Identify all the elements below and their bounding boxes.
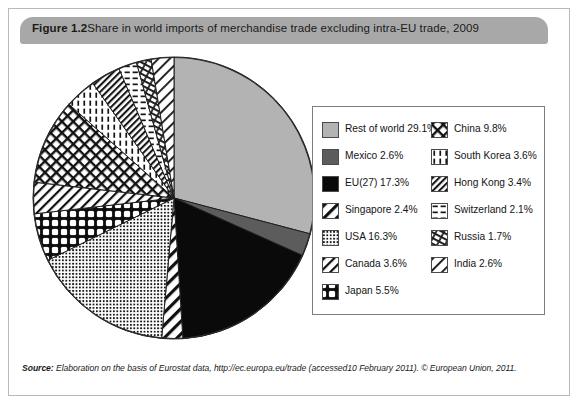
legend-item-label: Russia 1.7% xyxy=(454,232,511,242)
pie-chart-svg: Rest of world 29.1%Mexico 2.6%EU(27) 17.… xyxy=(28,52,320,344)
legend-item-label: Switzerland 2.1% xyxy=(454,205,533,215)
legend-item[interactable]: Hong Kong 3.4% xyxy=(431,170,543,197)
legend-item-label: Hong Kong 3.4% xyxy=(454,178,531,188)
figure-caption: Share in world imports of merchandise tr… xyxy=(87,22,479,34)
legend-item[interactable]: India 2.6% xyxy=(431,251,543,278)
legend-swatch xyxy=(431,122,448,138)
legend-swatch xyxy=(322,149,339,165)
legend-item[interactable]: Japan 5.5% xyxy=(322,278,430,305)
legend-column-left: Rest of world 29.1%Mexico 2.6%EU(27) 17.… xyxy=(322,116,430,305)
source-note: Source: Elaboration on the basis of Euro… xyxy=(22,363,556,373)
legend-swatch xyxy=(322,257,339,273)
legend-item[interactable]: China 9.8% xyxy=(431,116,543,143)
legend-item-label: Japan 5.5% xyxy=(345,286,399,296)
chart-legend: Rest of world 29.1%Mexico 2.6%EU(27) 17.… xyxy=(312,106,545,315)
legend-item[interactable]: Singapore 2.4% xyxy=(322,197,430,224)
figure-title-text: Figure 1.2Share in world imports of merc… xyxy=(32,22,542,34)
legend-swatch xyxy=(322,203,339,219)
figure-number: Figure 1.2 xyxy=(32,22,87,34)
legend-item-label: EU(27) 17.3% xyxy=(345,178,409,188)
legend-item[interactable]: USA 16.3% xyxy=(322,224,430,251)
legend-item[interactable]: EU(27) 17.3% xyxy=(322,170,430,197)
legend-item[interactable]: Mexico 2.6% xyxy=(322,143,430,170)
figure-title-banner: Figure 1.2Share in world imports of merc… xyxy=(20,17,548,44)
legend-swatch xyxy=(322,284,339,300)
legend-item-label: Rest of world 29.1% xyxy=(345,124,436,134)
source-label: Source: xyxy=(22,363,54,373)
legend-swatch xyxy=(431,257,448,273)
legend-item-label: India 2.6% xyxy=(454,259,502,269)
legend-swatch xyxy=(431,149,448,165)
legend-item[interactable]: Switzerland 2.1% xyxy=(431,197,543,224)
legend-item-label: Canada 3.6% xyxy=(345,259,407,269)
legend-swatch xyxy=(431,176,448,192)
legend-swatch xyxy=(322,176,339,192)
legend-item[interactable]: Russia 1.7% xyxy=(431,224,543,251)
legend-swatch xyxy=(322,230,339,246)
legend-item-label: Singapore 2.4% xyxy=(345,205,418,215)
chart-area: Rest of world 29.1%Mexico 2.6%EU(27) 17.… xyxy=(0,50,580,350)
legend-item[interactable]: Canada 3.6% xyxy=(322,251,430,278)
legend-item[interactable]: Rest of world 29.1% xyxy=(322,116,430,143)
source-text: Elaboration on the basis of Eurostat dat… xyxy=(54,363,517,373)
pie-slices: Rest of world 29.1%Mexico 2.6%EU(27) 17.… xyxy=(33,57,315,339)
legend-item[interactable]: South Korea 3.6% xyxy=(431,143,543,170)
legend-item-label: USA 16.3% xyxy=(345,232,397,242)
legend-item-label: China 9.8% xyxy=(454,124,507,134)
legend-swatch xyxy=(431,230,448,246)
figure-page: Figure 1.2Share in world imports of merc… xyxy=(0,0,580,406)
legend-item-label: Mexico 2.6% xyxy=(345,151,403,161)
pie-chart: Rest of world 29.1%Mexico 2.6%EU(27) 17.… xyxy=(28,52,320,344)
legend-column-right: China 9.8%South Korea 3.6%Hong Kong 3.4%… xyxy=(431,116,543,278)
legend-swatch xyxy=(431,203,448,219)
legend-swatch xyxy=(322,122,339,138)
legend-item-label: South Korea 3.6% xyxy=(454,151,537,161)
